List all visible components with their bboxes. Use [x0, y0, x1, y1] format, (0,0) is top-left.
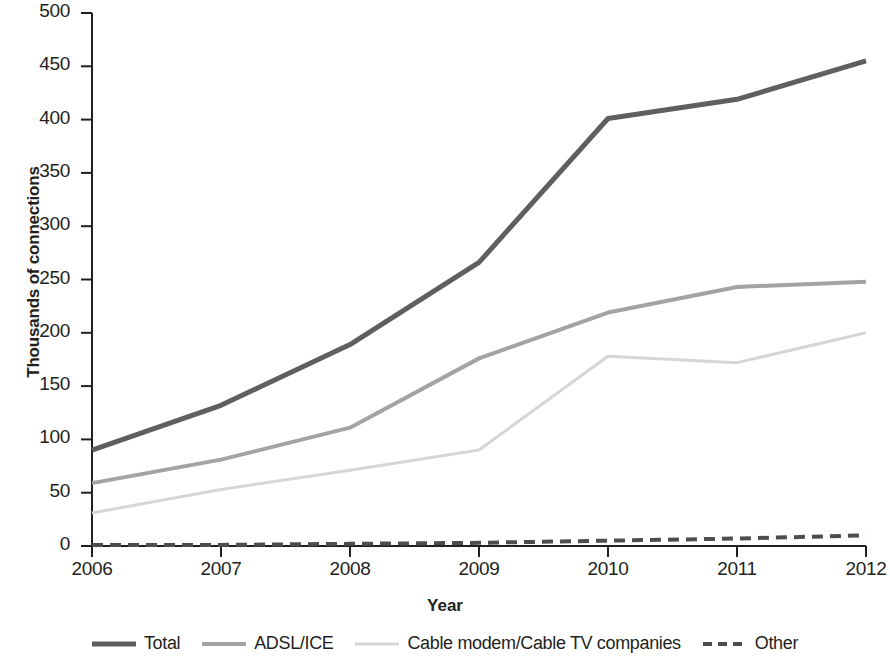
chart-figure: Thousands of connections 050100150200250… — [0, 0, 890, 666]
x-axis-tick-label: 2008 — [310, 558, 390, 580]
legend-swatch-icon — [355, 637, 399, 651]
x-axis-tick-label: 2012 — [826, 558, 890, 580]
data-series-group — [92, 61, 866, 545]
x-axis-tick-label: 2011 — [697, 558, 777, 580]
x-axis-title: Year — [0, 596, 890, 616]
legend-label: ADSL/ICE — [254, 633, 333, 654]
series-line — [92, 535, 866, 545]
x-axis-tick-label: 2010 — [568, 558, 648, 580]
chart-legend: TotalADSL/ICECable modem/Cable TV compan… — [0, 633, 890, 654]
x-axis-tick-label: 2009 — [439, 558, 519, 580]
legend-label: Other — [755, 633, 798, 654]
legend-swatch-icon — [202, 637, 246, 651]
legend-item[interactable]: ADSL/ICE — [202, 633, 333, 654]
legend-item[interactable]: Other — [703, 633, 798, 654]
legend-item[interactable]: Total — [92, 633, 180, 654]
legend-label: Cable modem/Cable TV companies — [407, 633, 680, 654]
legend-item[interactable]: Cable modem/Cable TV companies — [355, 633, 680, 654]
y-axis-ticks — [81, 13, 92, 546]
legend-label: Total — [144, 633, 180, 654]
x-axis-ticks — [92, 546, 866, 557]
x-axis-tick-label: 2006 — [52, 558, 132, 580]
legend-swatch-icon — [703, 637, 747, 651]
series-line — [92, 282, 866, 483]
x-axis-tick-label: 2007 — [181, 558, 261, 580]
series-line — [92, 61, 866, 450]
legend-swatch-icon — [92, 637, 136, 651]
